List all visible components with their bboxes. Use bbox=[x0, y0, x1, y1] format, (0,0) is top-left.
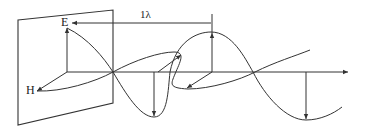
h-field-label: H bbox=[26, 83, 35, 97]
e-field-label: E bbox=[61, 15, 68, 29]
wavelength-label: 1λ bbox=[140, 8, 152, 20]
em-wave-diagram: E H 1λ bbox=[0, 0, 365, 135]
h-field-wave bbox=[37, 50, 310, 91]
h-vector-1 bbox=[158, 55, 181, 72]
h-vector-2 bbox=[187, 72, 212, 88]
h-field-vector bbox=[37, 72, 67, 91]
